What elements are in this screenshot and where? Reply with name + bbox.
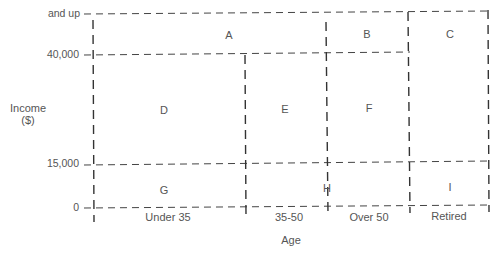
cell-a: A	[225, 29, 232, 41]
cell-e: E	[281, 103, 288, 115]
y-tick-15000: 15,000	[47, 157, 79, 169]
line-right	[488, 10, 489, 212]
x-cat-retired: Retired	[431, 210, 466, 222]
line-and-up	[84, 11, 490, 14]
line-40000	[84, 52, 410, 55]
x-cat-35-50: 35-50	[275, 211, 303, 223]
line-under35-35-50	[245, 55, 246, 216]
cell-f: F	[366, 102, 373, 114]
cell-g: G	[160, 184, 169, 196]
y-tick-0: 0	[73, 201, 79, 213]
line-15000	[84, 161, 490, 165]
x-cat-under-35: Under 35	[145, 211, 190, 223]
y-axis-label-line2: ($)	[8, 114, 48, 126]
cell-h: H	[323, 182, 331, 194]
line-0	[84, 205, 490, 208]
cell-c: C	[446, 28, 454, 40]
y-axis-label: Income ($)	[8, 102, 48, 126]
x-axis-label: Age	[281, 234, 301, 246]
line-left	[93, 20, 94, 222]
x-cat-over-50: Over 50	[349, 211, 388, 223]
y-tick-and-up: and up	[48, 7, 80, 19]
cell-b: B	[363, 28, 370, 40]
y-tick-40000: 40,000	[47, 48, 79, 60]
y-axis-label-line1: Income	[8, 102, 48, 114]
line-over50-retired	[408, 12, 410, 213]
cell-i: I	[448, 181, 451, 193]
cell-d: D	[160, 104, 168, 116]
segmentation-grid	[0, 0, 500, 253]
